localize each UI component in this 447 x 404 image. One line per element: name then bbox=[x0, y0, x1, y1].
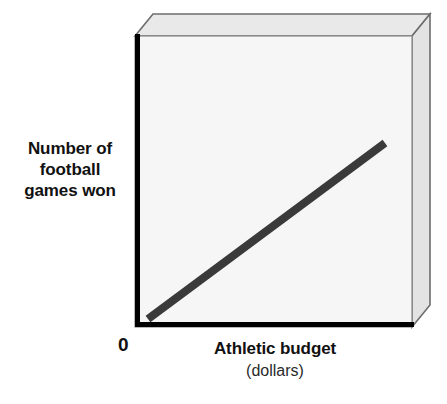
x-axis-origin-label: 0 bbox=[118, 334, 129, 356]
x-axis-label-title: Athletic budget bbox=[160, 338, 390, 359]
y-axis-label-line-1: Number of bbox=[8, 138, 132, 159]
plot-box-right-face bbox=[412, 14, 430, 327]
chart-figure: Number of football games won 0 Athletic … bbox=[0, 0, 447, 404]
x-axis-label: Athletic budget (dollars) bbox=[160, 338, 390, 381]
y-axis-label: Number of football games won bbox=[8, 138, 132, 201]
plot-box-front-face bbox=[135, 36, 412, 327]
y-axis-label-line-2: football bbox=[8, 159, 132, 180]
plot-box-top-face bbox=[135, 14, 430, 36]
y-axis-label-line-3: games won bbox=[8, 180, 132, 201]
x-axis-label-units: (dollars) bbox=[160, 360, 390, 381]
